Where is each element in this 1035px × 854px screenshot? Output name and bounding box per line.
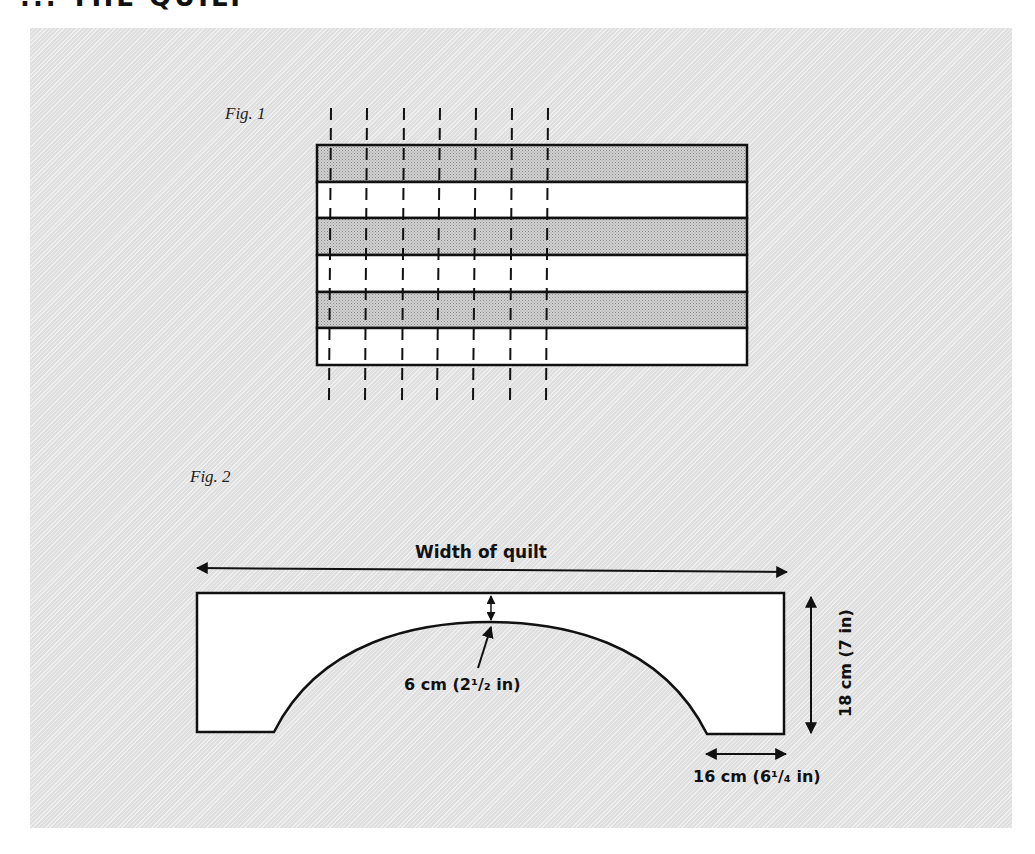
top-gap-pointer xyxy=(478,627,491,668)
strip-4-white xyxy=(317,255,747,292)
width-arrow xyxy=(197,568,787,572)
top-gap-label: 6 cm (2¹/₂ in) xyxy=(404,675,521,694)
fig1-strips xyxy=(317,145,747,365)
fig1-strip-diagram: Width of quilt 6 cm (2¹/₂ in) 18 cm (7 i… xyxy=(0,0,1035,854)
width-label: Width of quilt xyxy=(415,542,547,562)
strip-5-shaded xyxy=(317,292,747,328)
strip-6-white xyxy=(317,328,747,365)
strip-3-shaded xyxy=(317,218,747,255)
foot-width-label: 16 cm (6¹/₄ in) xyxy=(693,767,821,786)
strip-2-white xyxy=(317,182,747,218)
height-label: 18 cm (7 in) xyxy=(836,609,855,717)
strip-1-shaded xyxy=(317,145,747,182)
